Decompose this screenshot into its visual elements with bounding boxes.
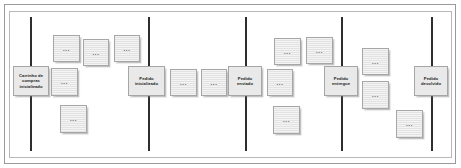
sticky-note[interactable]: ...	[273, 106, 300, 134]
sticky-note-label: ...	[405, 121, 415, 127]
sticky-note-label: ...	[62, 46, 72, 52]
sticky-note[interactable]: ...	[53, 35, 80, 62]
sticky-note-label: ...	[371, 59, 381, 65]
milestone-pedido-devolvido[interactable]: Pedido devolvido	[414, 66, 448, 96]
sticky-note-label: ...	[209, 80, 219, 86]
milestone-label: Pedido inicializado	[129, 76, 164, 87]
sticky-note[interactable]: ...	[170, 69, 197, 96]
milestone-label: Pedido devolvido	[415, 76, 447, 87]
sticky-note-label: ...	[91, 50, 101, 56]
sticky-note[interactable]: ...	[83, 39, 109, 66]
sticky-note-label: ...	[60, 79, 70, 85]
milestone-pedido-entregue[interactable]: Pedido entregue	[324, 66, 358, 96]
sticky-note-label: ...	[179, 80, 189, 86]
sticky-note[interactable]: ...	[201, 69, 227, 96]
sticky-note[interactable]: ...	[274, 38, 301, 65]
sticky-note-label: ...	[122, 46, 132, 52]
milestone-pedido-enviado[interactable]: Pedido enviado	[228, 66, 262, 96]
sticky-note[interactable]: ...	[396, 110, 423, 138]
sticky-note-label: ...	[282, 117, 292, 123]
milestone-label: Carrinho de compras inicializado	[14, 73, 48, 89]
sticky-note-label: ...	[69, 116, 79, 122]
sticky-note-label: ...	[275, 80, 285, 86]
sticky-note[interactable]: ...	[306, 37, 333, 64]
sticky-note-label: ...	[371, 92, 381, 98]
sticky-note[interactable]: ...	[51, 68, 78, 96]
sticky-note[interactable]: ...	[362, 48, 389, 75]
milestone-label: Pedido entregue	[325, 76, 357, 87]
milestone-carrinho-de-compras-inicializado[interactable]: Carrinho de compras inicializado	[13, 66, 49, 96]
milestone-pedido-inicializado[interactable]: Pedido inicializado	[128, 66, 165, 96]
event-storming-board: ... ... ... ... ... ... ... ... ... ... …	[0, 0, 461, 168]
milestone-label: Pedido enviado	[229, 76, 261, 87]
sticky-note-label: ...	[283, 49, 293, 55]
sticky-note-label: ...	[315, 48, 325, 54]
sticky-note[interactable]: ...	[60, 105, 87, 133]
sticky-note[interactable]: ...	[114, 35, 140, 62]
sticky-note[interactable]: ...	[362, 81, 389, 109]
sticky-note[interactable]: ...	[267, 69, 293, 96]
